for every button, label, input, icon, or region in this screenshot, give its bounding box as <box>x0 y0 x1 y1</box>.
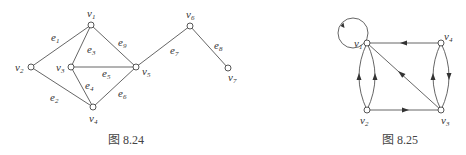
edge-e7 <box>136 26 190 67</box>
label-v5: v5 <box>142 65 151 79</box>
node-v4 <box>90 104 96 110</box>
edge-e9 <box>91 25 136 67</box>
node-v2 <box>28 64 34 70</box>
edge-e6 <box>93 67 136 107</box>
label-v3: v3 <box>56 61 65 75</box>
label-e9: e9 <box>118 36 127 50</box>
node-v2 <box>364 107 370 113</box>
label-v4: v4 <box>89 112 98 126</box>
node-v5 <box>133 64 139 70</box>
node-v3 <box>438 107 444 113</box>
label-e5: e5 <box>102 67 111 81</box>
node-v1 <box>364 40 370 46</box>
label-v3: v3 <box>441 114 450 128</box>
node-v1 <box>88 22 94 28</box>
caption-fig-8-25: 图 8.25 <box>382 133 418 147</box>
arrowhead-v2-v3 <box>402 108 409 113</box>
figure-8-25: v1 v2 v3 v4 图 8.25 <box>338 18 453 147</box>
arrowhead-v2-v1-right <box>373 73 378 80</box>
node-labels: v1 v2 v3 v4 v5 v6 v7 <box>15 7 237 126</box>
caption-fig-8-24: 图 8.24 <box>108 133 144 147</box>
arrowhead-v2-v1-left <box>357 73 362 80</box>
label-v6: v6 <box>186 8 195 22</box>
label-v2: v2 <box>15 61 24 75</box>
label-v7: v7 <box>228 71 237 85</box>
arrowhead-v4-v1 <box>400 41 407 46</box>
label-v1: v1 <box>354 37 362 51</box>
edge-e1 <box>31 25 91 67</box>
graph-figures: v1 v2 v3 v4 v5 v6 v7 e1 e2 e3 e4 e5 e6 e… <box>0 0 466 155</box>
arrowhead-v4-v3 <box>447 73 452 80</box>
figure-8-24: v1 v2 v3 v4 v5 v6 v7 e1 e2 e3 e4 e5 e6 e… <box>15 7 237 147</box>
node-v3 <box>68 64 74 70</box>
arc-v3-v1 <box>367 43 441 110</box>
label-e3: e3 <box>87 43 96 57</box>
label-e7: e7 <box>170 44 179 58</box>
arc-loop-v1 <box>338 18 368 48</box>
label-e1: e1 <box>51 31 59 45</box>
arcs <box>338 18 452 113</box>
label-e8: e8 <box>214 39 223 53</box>
label-e4: e4 <box>85 79 94 93</box>
label-e6: e6 <box>118 87 127 101</box>
label-e2: e2 <box>50 91 59 105</box>
arrowhead-v3-v4 <box>431 73 436 80</box>
label-v2: v2 <box>360 114 369 128</box>
label-v1: v1 <box>87 7 95 21</box>
label-v4: v4 <box>444 30 453 44</box>
node-v6 <box>187 23 193 29</box>
